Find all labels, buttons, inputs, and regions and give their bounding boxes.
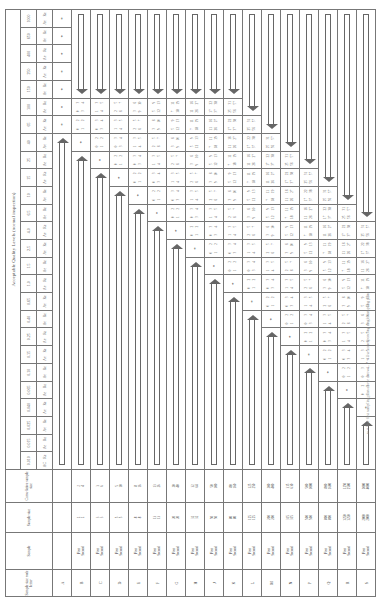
code-letter: J <box>205 570 224 597</box>
sampling-plan: 0212 <box>338 363 357 381</box>
sampling-plan: 25315657 <box>357 222 376 240</box>
sampling-plan: 7111819 <box>186 116 205 134</box>
cumulative-size: 315630 <box>281 470 300 503</box>
ac-re-header: AcRe <box>37 416 53 434</box>
left-arrow-icon <box>192 14 198 89</box>
cumulative-size-value: 16 <box>138 484 142 487</box>
cumulative-size-value: 100 <box>214 484 218 489</box>
sample-size-value: 80 <box>233 516 237 519</box>
sample-size-value: 13 <box>157 516 161 519</box>
sampling-plan: 591213 <box>224 169 243 187</box>
aql-value: 10 <box>21 187 37 205</box>
left-arrow-icon <box>135 14 141 89</box>
star-symbol: * <box>262 310 281 328</box>
header-code-letter: Sample size code letter <box>6 570 53 597</box>
sampling-plan: 591213 <box>262 204 281 222</box>
right-arrow-span <box>224 293 243 470</box>
aql-value: 2.5 <box>21 240 37 258</box>
sampling-plan: 36910 <box>148 116 167 134</box>
code-letter: N <box>281 570 300 597</box>
sampling-plan: 2567 <box>148 133 167 151</box>
sampling-plan: 0212 <box>224 257 243 275</box>
left-arrow-span <box>205 10 224 98</box>
sample-size-value: 800 <box>328 515 332 520</box>
cumulative-size-value: 2500 <box>347 483 351 489</box>
sample-size: 800800 <box>319 503 338 533</box>
sampling-plan: 0334 <box>72 98 91 116</box>
sampling-plan: 36910 <box>243 204 262 222</box>
aql-value: 0.010 <box>21 452 37 470</box>
sampling-plan: 1345 <box>110 116 129 134</box>
sampling-plan: 17223738 <box>224 116 243 134</box>
sampling-plan: 0212 <box>205 240 224 258</box>
sampling-plan: 36910 <box>281 240 300 258</box>
ac-re-header: AcRe <box>37 310 53 328</box>
left-arrow-icon <box>249 14 255 107</box>
sample-label-value: Second <box>328 546 332 555</box>
sample-label-value: Second <box>309 546 313 555</box>
left-arrow-span <box>243 10 262 116</box>
cumulative-size: 3264 <box>186 470 205 503</box>
sampling-plan: 0334 <box>319 328 338 346</box>
sampling-plan: 0334 <box>167 187 186 205</box>
left-arrow-icon <box>116 14 122 89</box>
sampling-plan: 7111819 <box>262 187 281 205</box>
cumulative-size-value: 4000 <box>366 483 370 489</box>
sampling-plan: 0334 <box>262 275 281 293</box>
header-aql-title: Acceptable Quality Levels (normal inspec… <box>6 10 21 470</box>
sampling-plan: 0212 <box>319 346 338 364</box>
sampling-plan: 0334 <box>205 222 224 240</box>
ac-re-header: AcRe <box>37 222 53 240</box>
re-label: Re <box>43 81 47 89</box>
sample-size-value: 8 <box>138 517 142 519</box>
right-arrow-span <box>300 363 319 469</box>
sampling-plan: 0212 <box>72 116 91 134</box>
sampling-plan: 2567 <box>300 275 319 293</box>
right-arrow-icon <box>325 390 331 465</box>
sample-size-value: 50 <box>214 516 218 519</box>
aql-value: 40 <box>21 133 37 151</box>
cumulative-size-value: 1000 <box>309 483 313 489</box>
aql-value: 25 <box>21 151 37 169</box>
ac-re-header: AcRe <box>37 45 53 63</box>
re-label: Re <box>43 364 47 372</box>
star-symbol: * <box>224 275 243 293</box>
left-arrow-icon <box>173 14 179 89</box>
table-row: A******* <box>53 10 72 597</box>
sample-label: FirstSecond <box>281 533 300 570</box>
sampling-plan: 0334 <box>148 169 167 187</box>
sampling-plan: 7111819 <box>338 257 357 275</box>
sampling-plan: 1345 <box>167 169 186 187</box>
aql-value: 0.040 <box>21 399 37 417</box>
sample-size-value: 200 <box>271 515 275 520</box>
sampling-plan: 7111819 <box>319 240 338 258</box>
sample-label: FirstSecond <box>338 533 357 570</box>
cumulative-size: 12502500 <box>338 470 357 503</box>
sample-label-value: Second <box>100 546 104 555</box>
header-cumulative: Cumu-lative sample size <box>6 470 53 503</box>
ac-label: Ac <box>43 390 47 398</box>
ac-label: Ac <box>43 266 47 274</box>
sampling-plan: 0212 <box>110 151 129 169</box>
aql-value: 0.015 <box>21 434 37 452</box>
cumulative-size: 2040 <box>167 470 186 503</box>
re-label: Re <box>43 152 47 160</box>
sampling-plan: 7111819 <box>357 275 376 293</box>
ac-label: Ac <box>43 337 47 345</box>
aql-value: 0.15 <box>21 346 37 364</box>
right-arrow-icon <box>268 337 274 466</box>
sampling-plan: 1345 <box>338 328 357 346</box>
sampling-plan: 2567 <box>186 169 205 187</box>
sampling-plan: 1345 <box>319 310 338 328</box>
re-label: Re <box>43 435 47 443</box>
ac-label: Ac <box>43 36 47 44</box>
right-arrow-span <box>338 399 357 470</box>
right-arrow-span <box>167 240 186 470</box>
star-symbol: * <box>53 63 72 81</box>
sampling-plan: 0212 <box>243 275 262 293</box>
sampling-plan: 17223738 <box>338 222 357 240</box>
sampling-plan: 0334 <box>338 346 357 364</box>
star-symbol: * <box>186 240 205 258</box>
sampling-plan: 1345 <box>281 275 300 293</box>
right-arrow-span <box>53 133 72 469</box>
